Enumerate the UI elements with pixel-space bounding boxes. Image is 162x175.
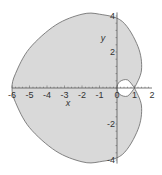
x-tick-label: -4: [43, 90, 51, 100]
x-tick-label: -2: [78, 90, 86, 100]
x-tick-label: 0: [114, 90, 119, 100]
x-tick-label: -1: [95, 90, 103, 100]
x-tick-label: -5: [25, 90, 33, 100]
x-tick-label: 2: [149, 90, 154, 100]
y-tick-label: -2: [107, 119, 115, 129]
y-tick-label: 2: [110, 47, 115, 57]
y-tick-label: 4: [110, 11, 115, 21]
x-tick-label: -6: [8, 90, 16, 100]
y-tick-label: -4: [107, 155, 115, 165]
x-axis-label: x: [65, 98, 71, 108]
polar-plot: -6-5-4-3-2-101242-2-4xy: [0, 0, 162, 175]
x-tick-label: 1: [132, 90, 137, 100]
y-axis-label: y: [100, 33, 106, 43]
